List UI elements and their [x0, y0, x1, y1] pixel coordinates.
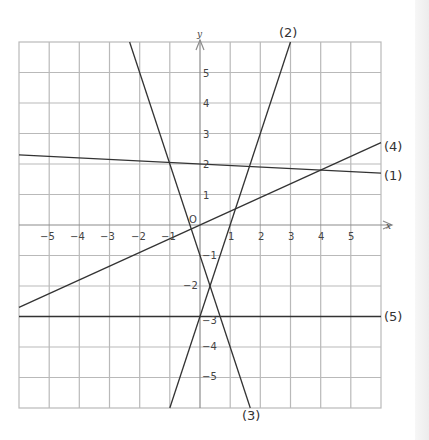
x-axis-label: x	[386, 221, 391, 231]
line-label-5: (5)	[384, 309, 402, 324]
x-tick-label: 5	[348, 231, 354, 242]
y-axis-label: y	[196, 29, 203, 39]
x-tick-label: 2	[258, 231, 264, 242]
x-tick-label: −3	[100, 231, 115, 242]
y-tick-label: 5	[203, 68, 209, 79]
line-labels: (2) (4) (1) (5) (3)	[242, 25, 402, 423]
x-tick-label: −2	[131, 231, 146, 242]
origin-label: O	[189, 214, 197, 225]
y-tick-label: −4	[202, 341, 217, 352]
y-tick-label: 3	[203, 129, 209, 140]
line-label-4: (4)	[384, 139, 402, 154]
y-tick-label: −5	[202, 371, 217, 382]
x-tick-label: −1	[161, 231, 176, 242]
x-tick-label: 4	[318, 231, 324, 242]
y-tick-label: −1	[202, 250, 217, 261]
x-tick-labels: −5 −4 −3 −2 −1 1 2 3 4 5	[40, 231, 354, 242]
line-label-1: (1)	[384, 168, 402, 183]
y-tick-label: 2	[203, 159, 209, 170]
x-tick-label: 1	[228, 231, 234, 242]
x-tick-label: −5	[40, 231, 55, 242]
coordinate-plane: y x O −5 −4 −3 −2 −1 1 2 3 4 5 5 4 3 2 1…	[0, 0, 429, 440]
y-tick-label: −2	[183, 280, 198, 291]
x-tick-label: −4	[70, 231, 85, 242]
axes	[19, 40, 392, 408]
x-tick-label: 3	[288, 231, 294, 242]
y-tick-label: 1	[203, 190, 209, 201]
line-label-3: (3)	[242, 408, 260, 423]
y-tick-label: −3	[202, 315, 217, 326]
y-tick-label: 4	[203, 98, 209, 109]
line-label-2: (2)	[279, 25, 297, 40]
